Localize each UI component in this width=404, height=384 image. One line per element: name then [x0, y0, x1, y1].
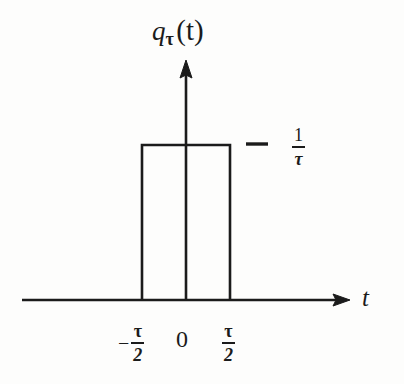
fraction-bar [292, 146, 305, 148]
minus-sign: − [118, 332, 129, 354]
figure-canvas [0, 0, 404, 384]
fraction-bar [222, 342, 235, 344]
fraction-tau-over-two: τ 2 [131, 322, 144, 364]
tick-label-negative-half-tau: − τ 2 [118, 322, 144, 364]
tick-label-origin: 0 [176, 327, 188, 351]
fraction-bar [131, 342, 144, 344]
vertical-axis-label: qτ(t) [152, 16, 204, 48]
axis-title-subscript: τ [166, 29, 175, 49]
fraction-numerator: 1 [292, 126, 305, 145]
axis-title-base: q [152, 16, 166, 46]
tick-label-positive-half-tau: τ 2 [222, 322, 235, 364]
value-label-one-over-tau: 1 τ [292, 126, 305, 168]
fraction-tau-over-two: τ 2 [222, 322, 235, 364]
fraction-one-over-tau: 1 τ [292, 126, 305, 168]
fraction-denominator: τ [292, 149, 305, 168]
rectangular-pulse-figure: qτ(t) t 1 τ − τ 2 0 τ 2 [0, 0, 404, 384]
fraction-numerator: τ [222, 322, 235, 341]
fraction-numerator: τ [131, 322, 144, 341]
vertical-axis-arrowhead [180, 60, 192, 78]
axis-title-argument: (t) [176, 14, 203, 46]
fraction-denominator: 2 [131, 345, 144, 364]
fraction-denominator: 2 [222, 345, 235, 364]
horizontal-axis-arrowhead [333, 294, 350, 306]
horizontal-axis-label: t [362, 285, 369, 310]
